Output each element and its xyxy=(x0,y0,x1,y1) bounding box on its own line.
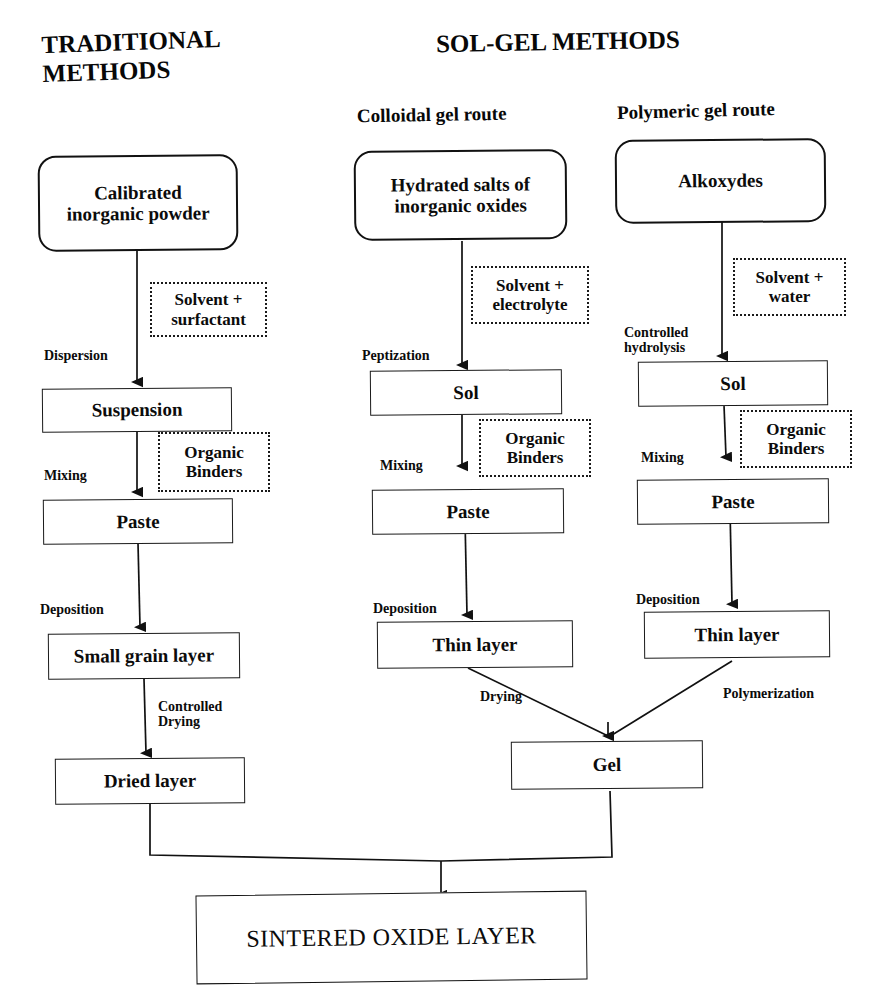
node-paste-polymeric[interactable]: Paste xyxy=(637,478,829,525)
edge-label-dispersion: Dispersion xyxy=(44,348,108,363)
node-alkoxydes[interactable]: Alkoxydes xyxy=(615,138,827,224)
edge-dried-to-trunk xyxy=(150,803,441,861)
edge-label-drying: Drying xyxy=(480,689,522,704)
edge-paste-to-smallgrain xyxy=(138,543,140,627)
title-sol-gel-methods: SOL-GEL METHODS xyxy=(436,26,680,59)
node-sol-polymeric[interactable]: Sol xyxy=(638,360,828,407)
edge-thinlayer-polymerization xyxy=(612,661,732,735)
edge-label-peptization: Peptization xyxy=(362,348,430,363)
node-paste-traditional[interactable]: Paste xyxy=(43,498,233,545)
edge-label-controlled-hydrolysis: Controlled hydrolysis xyxy=(624,325,688,356)
edge-smallgrain-to-dried xyxy=(144,679,146,753)
edge-label-deposition-traditional: Deposition xyxy=(40,602,104,617)
node-paste-colloidal[interactable]: Paste xyxy=(372,488,564,535)
node-dried-layer[interactable]: Dried layer xyxy=(55,757,245,805)
subtitle-colloidal-gel-route: Colloidal gel route xyxy=(357,103,507,127)
title-traditional-methods: TRADITIONAL METHODS xyxy=(41,25,222,89)
node-thin-layer-polymeric[interactable]: Thin layer xyxy=(644,610,830,659)
reagent-organic-binders-colloidal[interactable]: Organic Binders xyxy=(479,419,591,477)
reagent-organic-binders-polymeric[interactable]: Organic Binders xyxy=(740,410,852,468)
edge-label-mixing-polymeric: Mixing xyxy=(641,450,684,465)
edge-sol-to-paste xyxy=(724,405,726,457)
node-suspension[interactable]: Suspension xyxy=(42,387,232,433)
edge-gel-to-trunk xyxy=(441,791,612,861)
reagent-solvent-electrolyte[interactable]: Solvent + electrolyte xyxy=(471,266,589,324)
edge-label-controlled-drying: Controlled Drying xyxy=(158,699,222,730)
flowchart-canvas: TRADITIONAL METHODS SOL-GEL METHODS Coll… xyxy=(0,0,877,1005)
edge-label-polymerization: Polymerization xyxy=(723,686,814,701)
reagent-solvent-surfactant[interactable]: Solvent + surfactant xyxy=(150,282,267,337)
node-calibrated-inorganic-powder[interactable]: Calibrated inorganic powder xyxy=(38,154,239,252)
edge-label-mixing-colloidal: Mixing xyxy=(380,458,423,473)
edge-label-deposition-colloidal: Deposition xyxy=(373,601,437,616)
edge-label-deposition-polymeric: Deposition xyxy=(636,592,700,607)
subtitle-polymeric-gel-route: Polymeric gel route xyxy=(617,98,775,124)
node-gel[interactable]: Gel xyxy=(511,740,703,790)
node-sol-colloidal[interactable]: Sol xyxy=(370,369,562,416)
node-sintered-oxide-layer[interactable]: SINTERED OXIDE LAYER xyxy=(195,891,587,985)
node-thin-layer-colloidal[interactable]: Thin layer xyxy=(377,620,573,669)
node-small-grain-layer[interactable]: Small grain layer xyxy=(48,632,240,680)
edge-label-mixing-traditional: Mixing xyxy=(44,468,87,483)
reagent-solvent-water[interactable]: Solvent + water xyxy=(733,258,846,316)
node-hydrated-salts-of-inorganic-oxides[interactable]: Hydrated salts of inorganic oxides xyxy=(354,149,568,241)
reagent-organic-binders-traditional[interactable]: Organic Binders xyxy=(158,432,270,492)
